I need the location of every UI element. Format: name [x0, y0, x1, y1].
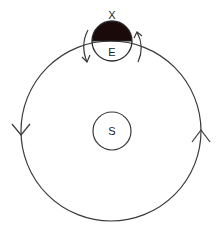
earth-label: E: [108, 46, 115, 58]
rotation-arrow-left-icon: [82, 30, 90, 62]
sun-label: S: [108, 125, 115, 137]
earth: E: [92, 21, 132, 61]
point-x-label: X: [108, 9, 116, 21]
orbit-diagram: S E X: [0, 0, 223, 236]
earth-dark-half: [92, 21, 132, 41]
rotation-arrow-right-icon: [134, 32, 142, 62]
